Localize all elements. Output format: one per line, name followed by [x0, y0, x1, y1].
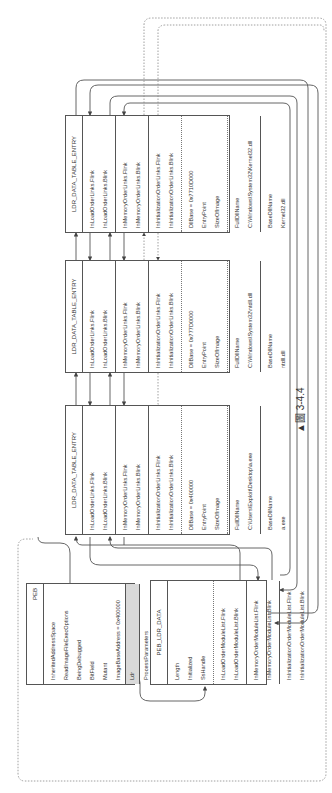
entry-field: SizeOfImage — [211, 265, 224, 368]
ldr-field: Initialized — [184, 585, 197, 680]
entry-title: LDR_DATA_TABLE_ENTRY — [66, 261, 83, 372]
peb-title: PEB — [27, 584, 44, 684]
entry-field: DllBase = 0x7710D000 — [185, 120, 198, 228]
peb-field: BitField — [86, 588, 99, 680]
entry-field: C:\Windows\System32\ntdll.dll — [244, 265, 257, 368]
entry-field: InInitializationOrderLinks.Flink — [152, 120, 165, 228]
peb-field: ImageBaseAddress = 0x400000 — [112, 588, 125, 680]
ldr-init-blink: InInitializationOrderModuleList.Blink — [296, 585, 309, 680]
diagram-stage: PEB InheritedAddressSpace ReadImageFileE… — [0, 0, 332, 793]
peb-field: Mutant — [99, 588, 112, 680]
entry-field: InMemoryOrderLinks.Blink — [132, 410, 145, 530]
peb-ldr-data-title: PEB_LDR_DATA — [151, 581, 168, 684]
entry-field: DllBase = 0x400000 — [185, 410, 198, 530]
peb-field: BeingDebugged — [73, 588, 86, 680]
entry-field: EntryPoint — [198, 265, 211, 368]
ldr-load-flink: InLoadOrderModuleList.Flink — [217, 585, 230, 680]
entry-field: a.exe — [277, 410, 290, 530]
ldr-entry-ntdll: LDR_DATA_TABLE_ENTRY InLoadOrderLinks.Fl… — [65, 260, 230, 373]
entry-field: InLoadOrderLinks.Flink — [86, 410, 99, 530]
entry-field: InLoadOrderLinks.Blink — [99, 120, 112, 228]
entry-field: BaseDllName — [264, 120, 277, 228]
entry-field: InMemoryOrderLinks.Flink — [119, 120, 132, 228]
ldr-init-flink: InInitializationOrderModuleList.Flink — [283, 585, 296, 680]
entry-field: C:\Users\Exploit\Desktop\a.exe — [244, 410, 257, 530]
entry-field: C:\Windows\System32\Kernel32.dll — [244, 120, 257, 228]
entry-field: InMemoryOrderLinks.Flink — [119, 410, 132, 530]
figure-caption: ▲圖 3-4.4 — [292, 388, 307, 433]
peb-ldr-field: Ldr — [125, 584, 140, 684]
entry-field: BaseDllName — [264, 410, 277, 530]
entry-field: Kernel32.dll — [277, 120, 290, 228]
entry-field: InInitializationOrderLinks.Blink — [165, 410, 178, 530]
entry-field: InLoadOrderLinks.Blink — [99, 265, 112, 368]
entry-field: ntdll.dll — [277, 265, 290, 368]
entry-field: SizeOfImage — [211, 120, 224, 228]
entry-field: InInitializationOrderLinks.Blink — [165, 265, 178, 368]
entry-field: BaseDllName — [264, 265, 277, 368]
ldr-entry-a-exe: LDR_DATA_TABLE_ENTRY InLoadOrderLinks.Fl… — [65, 405, 230, 535]
entry-field: InMemoryOrderLinks.Blink — [132, 120, 145, 228]
entry-field: InInitializationOrderLinks.Blink — [165, 120, 178, 228]
entry-field: DllBase = 0x777D0000 — [185, 265, 198, 368]
entry-field: FullDllName — [231, 265, 244, 368]
ldr-memory-flink: InMemoryOrderModuleList.Flink — [250, 585, 263, 680]
entry-field: EntryPoint — [198, 120, 211, 228]
entry-field: EntryPoint — [198, 410, 211, 530]
ldr-field: SsHandle — [197, 585, 210, 680]
entry-field: FullDllName — [231, 410, 244, 530]
peb-field: InheritedAddressSpace — [47, 588, 60, 680]
peb-ldr-data-struct: PEB_LDR_DATA Length Initialized SsHandle… — [150, 580, 267, 685]
ldr-entry-kernel32: LDR_DATA_TABLE_ENTRY InLoadOrderLinks.Fl… — [65, 115, 230, 233]
entry-title: LDR_DATA_TABLE_ENTRY — [66, 116, 83, 232]
entry-field: InLoadOrderLinks.Flink — [86, 120, 99, 228]
entry-field: InMemoryOrderLinks.Flink — [119, 265, 132, 368]
entry-field: SizeOfImage — [211, 410, 224, 530]
entry-field: InLoadOrderLinks.Blink — [99, 410, 112, 530]
entry-field: InLoadOrderLinks.Flink — [86, 265, 99, 368]
entry-field: InInitializationOrderLinks.Flink — [152, 410, 165, 530]
entry-field: InMemoryOrderLinks.Blink — [132, 265, 145, 368]
ldr-memory-blink: InMemoryOrderModuleList.Blink — [263, 585, 276, 680]
entry-field: InInitializationOrderLinks.Flink — [152, 265, 165, 368]
ldr-field: Length — [171, 585, 184, 680]
entry-field: FullDllName — [231, 120, 244, 228]
entry-title: LDR_DATA_TABLE_ENTRY — [66, 406, 83, 534]
peb-field: ReadImageFileExecOptions — [60, 588, 73, 680]
ldr-load-blink: InLoadOrderModuleList.Blink — [230, 585, 243, 680]
peb-struct: PEB InheritedAddressSpace ReadImageFileE… — [26, 583, 135, 685]
